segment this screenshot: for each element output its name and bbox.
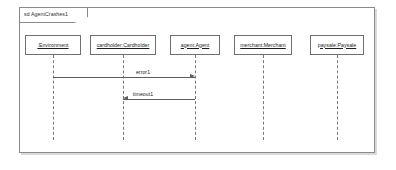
lifeline-head-environment[interactable]: :Environment (25, 35, 81, 55)
message-line-error1[interactable] (53, 77, 195, 78)
lifeline-stem-paysale (337, 55, 338, 140)
lifeline-stem-merchant (263, 55, 264, 140)
lifeline-head-paysale[interactable]: paysale:Paysale (310, 35, 364, 55)
message-label-error1: error1 (136, 69, 150, 76)
sequence-diagram-canvas: sd AgentCrashes1 :Environmentcardholder:… (0, 0, 396, 170)
lifeline-head-agent[interactable]: agent:Agent (170, 35, 220, 55)
lifeline-label-paysale: paysale:Paysale (318, 42, 357, 49)
message-label-timeout1: timeout1 (133, 91, 153, 98)
lifeline-head-merchant[interactable]: merchant:Merchant (234, 35, 292, 55)
lifeline-label-agent: agent:Agent (181, 42, 210, 49)
lifeline-head-cardholder[interactable]: cardholder:Cardholder (90, 35, 156, 55)
sequence-diagram-frame: sd AgentCrashes1 :Environmentcardholder:… (19, 7, 375, 153)
lifeline-label-environment: :Environment (37, 42, 68, 49)
arrowhead-timeout1-icon (123, 96, 128, 100)
arrowhead-error1-icon (190, 74, 195, 78)
lifeline-label-merchant: merchant:Merchant (240, 42, 286, 49)
lifeline-stem-agent (195, 55, 196, 140)
message-line-timeout1[interactable] (123, 99, 195, 100)
lifeline-stem-environment (53, 55, 54, 140)
frame-name-label: sd AgentCrashes1 (24, 11, 68, 18)
lifeline-label-cardholder: cardholder:Cardholder (97, 42, 150, 49)
